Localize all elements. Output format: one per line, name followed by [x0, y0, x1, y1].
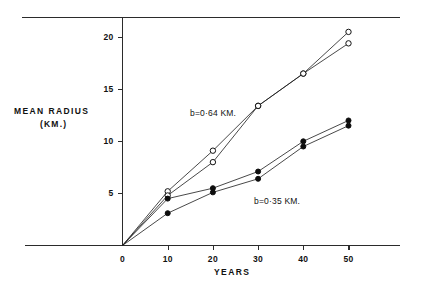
data-point-marker	[210, 148, 215, 153]
data-point-marker	[301, 139, 306, 144]
data-point-marker	[301, 144, 306, 149]
y-tick-label: 10	[92, 136, 114, 146]
data-point-marker	[165, 211, 170, 216]
data-point-marker	[301, 71, 306, 76]
data-point-marker	[346, 41, 351, 46]
x-tick-label: 50	[337, 254, 361, 264]
data-point-marker	[255, 103, 260, 108]
series-markers	[165, 29, 351, 216]
x-tick-label: 10	[156, 254, 180, 264]
series-line-open-circle-series-1	[123, 32, 349, 246]
annotation-upper-slope: b=0·64 KM.	[190, 108, 236, 118]
series-line-filled-circle-series-2	[123, 126, 349, 246]
series-line-open-circle-series-2	[123, 43, 349, 245]
y-axis-ticks	[118, 38, 123, 194]
annotation-lower-slope: b=0·35 KM.	[254, 196, 300, 206]
data-point-marker	[256, 169, 261, 174]
x-axis-title: YEARS	[214, 267, 250, 277]
data-point-marker	[346, 118, 351, 123]
x-tick-label: 30	[246, 254, 270, 264]
y-axis-unit-label: (KM.)	[40, 119, 67, 129]
x-tick-label: 40	[291, 254, 315, 264]
figure-container: MEAN RADIUS (KM.) YEARS b=0·64 KM. b=0·3…	[0, 0, 428, 285]
data-point-marker	[256, 176, 261, 181]
x-axis-ticks	[168, 246, 349, 251]
y-tick-label: 15	[92, 84, 114, 94]
x-tick-label: 0	[111, 254, 135, 264]
y-tick-label: 5	[92, 188, 114, 198]
data-point-marker	[210, 159, 215, 164]
data-point-marker	[210, 190, 215, 195]
y-tick-label: 20	[92, 32, 114, 42]
series-polylines	[123, 32, 349, 246]
data-point-marker	[346, 123, 351, 128]
data-point-marker	[346, 29, 351, 34]
chart-plot-area	[0, 0, 428, 285]
data-point-marker	[165, 196, 170, 201]
y-axis-title: MEAN RADIUS	[14, 106, 89, 116]
series-line-filled-circle-series-1	[123, 120, 349, 245]
x-tick-label: 20	[201, 254, 225, 264]
